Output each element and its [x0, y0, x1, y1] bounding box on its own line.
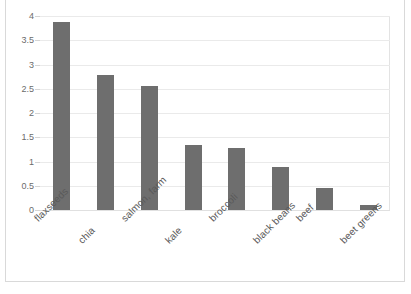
y-axis-tick-label: 1	[2, 157, 34, 167]
x-axis-category-label: kale	[163, 225, 184, 246]
y-axis-tick	[35, 186, 40, 187]
y-axis-tick-label: 0.5	[2, 181, 34, 191]
plot-area	[40, 16, 390, 210]
gridline	[40, 186, 390, 187]
y-axis-labels: 43.532.521.510.50	[0, 16, 34, 210]
y-axis-tick	[35, 162, 40, 163]
x-axis-labels: flaxseedschiasalmon, farmkalebroccolibla…	[40, 210, 390, 294]
y-axis-tick	[35, 210, 40, 211]
y-axis-tick-label: 3	[2, 60, 34, 70]
gridline	[40, 65, 390, 66]
chart-title-cropped	[6, 0, 404, 7]
bar-chart-figure: 43.532.521.510.50 flaxseedschiasalmon, f…	[0, 0, 411, 294]
y-axis-tick	[35, 65, 40, 66]
gridline	[40, 40, 390, 41]
y-axis-tick-label: 4	[2, 11, 34, 21]
y-axis-tick	[35, 40, 40, 41]
gridline	[40, 16, 390, 17]
gridline	[40, 113, 390, 114]
y-axis-tick-label: 0	[2, 205, 34, 215]
y-axis-tick	[35, 16, 40, 17]
bar	[185, 145, 202, 210]
gridline	[40, 137, 390, 138]
x-axis-category-label: chia	[76, 225, 97, 246]
y-axis-tick-label: 3.5	[2, 35, 34, 45]
y-axis-tick-label: 2.5	[2, 84, 34, 94]
gridline	[40, 162, 390, 163]
bar	[316, 188, 333, 210]
bar	[97, 75, 114, 210]
bar	[53, 22, 70, 210]
y-axis-tick-label: 2	[2, 108, 34, 118]
y-axis-tick	[35, 113, 40, 114]
y-axis-tick	[35, 89, 40, 90]
gridline	[40, 89, 390, 90]
y-axis-tick	[35, 137, 40, 138]
y-axis-tick-label: 1.5	[2, 132, 34, 142]
